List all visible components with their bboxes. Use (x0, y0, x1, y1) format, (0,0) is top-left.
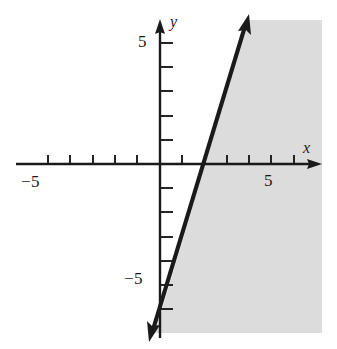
y-tick-label-positive-5: 5 (138, 33, 147, 50)
x-axis-ticks-negative (48, 155, 137, 164)
solution-region-shading (155, 20, 322, 333)
coordinate-plane-plot (0, 0, 337, 349)
y-axis-arrowhead (155, 19, 165, 34)
x-tick-label-negative-5: −5 (21, 173, 40, 190)
x-axis-label: x (303, 140, 310, 156)
y-axis-label: y (170, 14, 177, 30)
y-axis-ticks-positive (160, 43, 173, 140)
y-tick-label-negative-5: −5 (124, 270, 143, 287)
graph-figure: y x 5 −5 −5 5 (0, 0, 337, 349)
x-tick-label-positive-5: 5 (264, 172, 273, 189)
